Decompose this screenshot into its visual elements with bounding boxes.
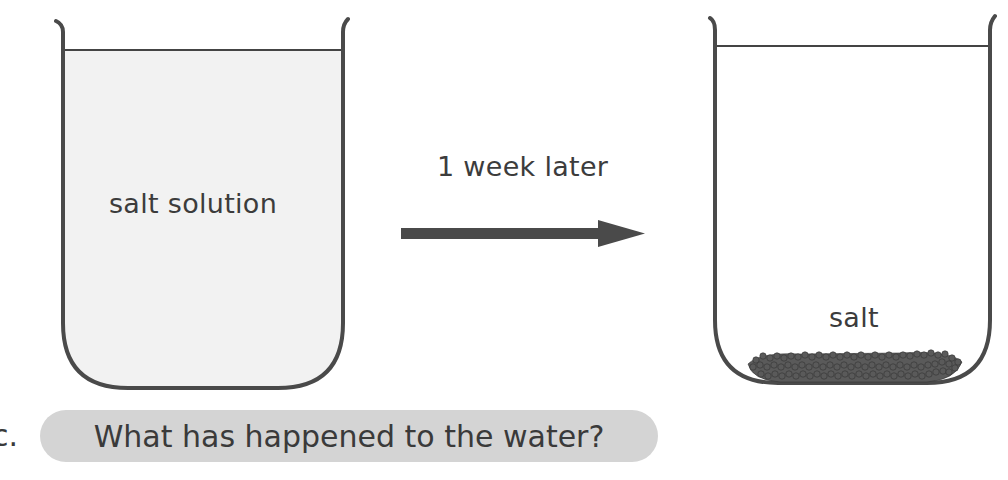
question-box: What has happened to the water? <box>40 410 658 462</box>
right-arrow-icon <box>401 220 645 247</box>
salt-solution-label: salt solution <box>109 188 277 219</box>
evaporation-diagram <box>0 0 1008 480</box>
salt-crystals <box>748 350 962 382</box>
liquid-fill <box>63 50 343 388</box>
question-letter: c. <box>0 418 18 453</box>
salt-label: salt <box>829 302 879 333</box>
time-elapsed-label: 1 week later <box>437 151 608 182</box>
question-text: What has happened to the water? <box>94 419 605 454</box>
